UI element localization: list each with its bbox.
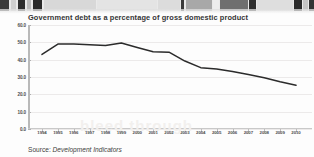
y-tick — [28, 129, 31, 130]
source-caption: Source: Development Indicators — [28, 146, 122, 153]
x-tick-label: 1999 — [117, 130, 126, 135]
x-tick-label: 1998 — [101, 130, 110, 135]
x-tick-label: 2003 — [180, 130, 189, 135]
x-tick-label: 2010 — [291, 130, 300, 135]
y-tick-label: 40.0 — [17, 57, 26, 62]
x-tick-label: 2002 — [164, 130, 173, 135]
y-tick-label: 0.0 — [20, 127, 26, 132]
x-tick-label: 2000 — [133, 130, 142, 135]
chart-title: Government debt as a percentage of gross… — [28, 13, 248, 22]
x-tick-label: 2008 — [260, 130, 269, 135]
x-tick-label: 1995 — [53, 130, 62, 135]
x-tick-label: 2004 — [196, 130, 205, 135]
x-tick-label: 1996 — [69, 130, 78, 135]
series-polyline — [42, 43, 296, 85]
x-tick-label: 2001 — [148, 130, 157, 135]
y-tick-label: 10.0 — [17, 109, 26, 114]
x-tick-label: 2005 — [212, 130, 221, 135]
x-tick-label: 1997 — [85, 130, 94, 135]
source-label: Source: — [28, 146, 51, 153]
y-tick-label: 50.0 — [17, 40, 26, 45]
x-tick-label: 2009 — [275, 130, 284, 135]
figure-page: Government debt as a percentage of gross… — [0, 0, 314, 157]
y-tick-label: 20.0 — [17, 92, 26, 97]
x-tick-label: 2007 — [244, 130, 253, 135]
y-tick-label: 30.0 — [17, 75, 26, 80]
x-tick-label: 2006 — [228, 130, 237, 135]
y-tick-label: 60.0 — [17, 23, 26, 28]
plot-area: 60.050.040.030.020.010.00.0 199419951996… — [28, 25, 312, 129]
x-tick-label: 1994 — [37, 130, 46, 135]
data-line-series — [28, 25, 312, 129]
source-name: Development Indicators — [53, 146, 122, 153]
